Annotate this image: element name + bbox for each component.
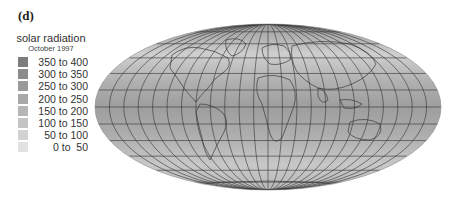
world-map (0, 0, 457, 200)
globe (95, 24, 442, 190)
